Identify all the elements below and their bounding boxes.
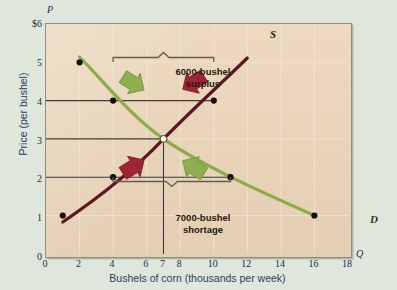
x-tick-6: 6 bbox=[143, 258, 148, 269]
demand-curve-label: D bbox=[370, 213, 378, 225]
demand-point-2-5 bbox=[77, 59, 83, 65]
equilibrium-point bbox=[160, 136, 167, 143]
y-tick-0: 0 bbox=[2, 251, 42, 262]
x-tick-14: 14 bbox=[275, 258, 285, 269]
supply-curve-label: S bbox=[270, 28, 276, 40]
x-tick-2: 2 bbox=[76, 258, 81, 269]
x-tick-12: 12 bbox=[241, 258, 251, 269]
surplus-line-2: surplus bbox=[143, 78, 263, 90]
surplus-annotation: 6000-bushel surplus bbox=[143, 66, 263, 89]
x-tick-7: 7 bbox=[160, 258, 165, 269]
x-axis-title: Bushels of corn (thousands per week) bbox=[45, 272, 350, 284]
surplus-bracket bbox=[113, 53, 214, 63]
surplus-line-1: 6000-bushel bbox=[143, 66, 263, 78]
shortage-line-1: 7000-bushel bbox=[143, 212, 263, 224]
supply-point-1-1 bbox=[60, 212, 66, 218]
y-tick-6: $6 bbox=[2, 18, 42, 29]
y-tick-1: 1 bbox=[2, 212, 42, 223]
x-tick-4: 4 bbox=[110, 258, 115, 269]
y-axis-variable-letter: P bbox=[47, 4, 53, 15]
x-tick-16: 16 bbox=[308, 258, 318, 269]
shortage-line-2: shortage bbox=[143, 224, 263, 236]
x-tick-8: 8 bbox=[177, 258, 182, 269]
demand-point-4-4 bbox=[110, 98, 116, 104]
demand-point-16-1 bbox=[311, 212, 317, 218]
shortage-green-arrow bbox=[176, 150, 210, 184]
x-tick-18: 18 bbox=[342, 258, 352, 269]
x-axis-variable-letter: Q bbox=[356, 248, 363, 259]
x-tick-0: 0 bbox=[43, 258, 48, 269]
supply-demand-figure: P Q $6 5 4 3 2 1 0 Price (per bushel) bbox=[0, 0, 397, 290]
supply-point-10-4 bbox=[211, 98, 217, 104]
shortage-bracket bbox=[113, 177, 230, 187]
x-tick-10: 10 bbox=[208, 258, 218, 269]
y-axis-title: Price (per bushel) bbox=[17, 44, 29, 184]
plot-area: 6000-bushel surplus 7000-bushel shortage bbox=[45, 23, 352, 258]
shortage-annotation: 7000-bushel shortage bbox=[143, 212, 263, 235]
